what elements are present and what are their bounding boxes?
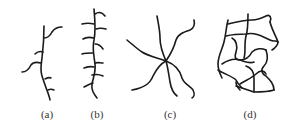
panel-c-label: (c) — [164, 108, 176, 120]
panel-b-label: (b) — [91, 108, 104, 120]
polymer-structures-figure: (a) (b) (c) (d) — [0, 0, 295, 132]
panel-a-label: (a) — [41, 108, 53, 120]
panel-b-comb-chain — [82, 9, 106, 98]
panel-d-label: (d) — [244, 108, 257, 120]
panel-a-branched-chain — [22, 26, 62, 100]
panel-c-star — [127, 16, 194, 98]
panel-d-network — [218, 14, 278, 92]
